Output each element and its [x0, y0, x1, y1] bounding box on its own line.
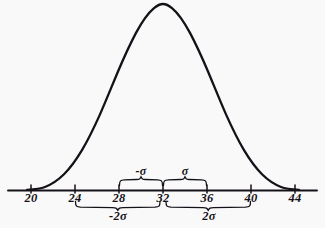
label-minus-2sigma: -2σ	[109, 210, 127, 222]
tick-label-28: 28	[113, 192, 126, 204]
tick-label-32: 32	[157, 192, 170, 204]
bracket-upper-minus-sigma	[120, 177, 163, 186]
label-sigma: σ	[182, 165, 189, 177]
gaussian-curve	[27, 4, 299, 190]
tick-label-20: 20	[25, 192, 38, 204]
tick-label-36: 36	[201, 192, 214, 204]
label-2sigma: 2σ	[202, 210, 215, 222]
tick-label-44: 44	[289, 192, 302, 204]
tick-label-24: 24	[69, 192, 82, 204]
label-minus-sigma: -σ	[136, 165, 147, 177]
bracket-upper-sigma	[164, 177, 207, 186]
normal-curve-figure: 20 24 28 32 36 40 44 -σ σ -2σ 2σ	[0, 0, 325, 228]
tick-label-40: 40	[245, 192, 258, 204]
